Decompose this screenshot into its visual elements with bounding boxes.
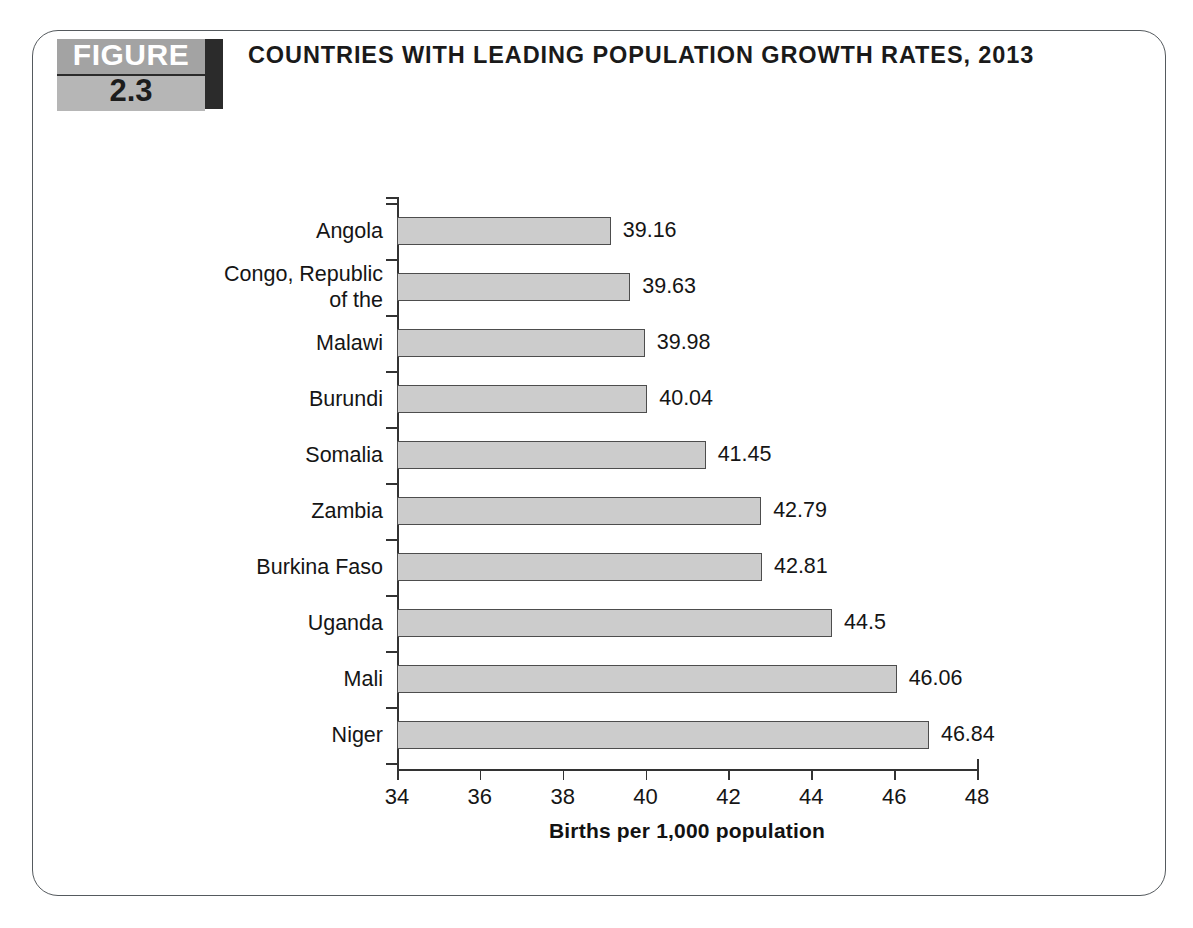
category-label: Niger	[43, 722, 383, 748]
y-axis-tick	[386, 203, 397, 205]
figure-badge: FIGURE 2.3	[57, 39, 223, 109]
x-axis-tick	[894, 769, 896, 780]
x-axis-tick-label: 34	[385, 783, 409, 811]
category-label: Somalia	[43, 442, 383, 468]
bar-value-label: 42.81	[774, 552, 828, 580]
bar-row: 44.5Uganda	[397, 595, 977, 651]
category-label: Angola	[43, 218, 383, 244]
bar-row: 42.79Zambia	[397, 483, 977, 539]
y-axis-tick	[386, 763, 397, 765]
x-axis-tick-label: 46	[882, 783, 906, 811]
bar-value-label: 42.79	[773, 496, 827, 524]
x-axis-line	[397, 769, 977, 771]
figure-badge-accent-bar	[205, 39, 223, 109]
bar-row: 39.16Angola	[397, 203, 977, 259]
bar	[397, 609, 832, 637]
category-label: Malawi	[43, 330, 383, 356]
bar-chart-plot: 39.16Angola39.63Congo, Republic of the39…	[397, 203, 977, 763]
bar-value-label: 41.45	[718, 440, 772, 468]
category-label: Burkina Faso	[43, 554, 383, 580]
chart-area: 39.16Angola39.63Congo, Republic of the39…	[33, 141, 1165, 897]
category-label: Congo, Republic of the	[43, 261, 383, 313]
y-axis-tick	[386, 651, 397, 653]
bar-row: 40.04Burundi	[397, 371, 977, 427]
y-axis-tick	[386, 371, 397, 373]
bar	[397, 497, 761, 525]
figure-frame: FIGURE 2.3 COUNTRIES WITH LEADING POPULA…	[32, 30, 1166, 896]
bar-row: 42.81Burkina Faso	[397, 539, 977, 595]
y-axis-tick	[386, 595, 397, 597]
bar	[397, 385, 647, 413]
x-axis-title: Births per 1,000 population	[397, 819, 977, 843]
bar-value-label: 39.16	[623, 216, 677, 244]
x-axis-tick-label: 48	[965, 783, 989, 811]
x-axis-tick	[811, 769, 813, 780]
category-label: Mali	[43, 666, 383, 692]
bar-value-label: 39.98	[657, 328, 711, 356]
x-axis-tick	[480, 769, 482, 780]
x-axis-tick	[977, 769, 979, 780]
bar	[397, 665, 897, 693]
bar	[397, 217, 611, 245]
category-label: Zambia	[43, 498, 383, 524]
bar-row: 39.98Malawi	[397, 315, 977, 371]
x-axis-tick	[563, 769, 565, 780]
x-axis-tick-label: 40	[633, 783, 657, 811]
bar-value-label: 39.63	[642, 272, 696, 300]
figure-header: FIGURE 2.3 COUNTRIES WITH LEADING POPULA…	[33, 31, 1165, 141]
x-axis-tick-label: 44	[799, 783, 823, 811]
category-label: Burundi	[43, 386, 383, 412]
x-axis-tick	[646, 769, 648, 780]
bar	[397, 273, 630, 301]
figure-badge-number: 2.3	[57, 72, 205, 109]
y-axis-tick	[386, 315, 397, 317]
x-axis-tick-label: 36	[468, 783, 492, 811]
x-axis-tick	[728, 769, 730, 780]
bar-row: 41.45Somalia	[397, 427, 977, 483]
y-axis-tick	[386, 707, 397, 709]
bar	[397, 329, 645, 357]
bar	[397, 721, 929, 749]
category-label: Uganda	[43, 610, 383, 636]
bar-value-label: 44.5	[844, 608, 886, 636]
bar	[397, 553, 762, 581]
y-axis-tick	[386, 259, 397, 261]
bar-value-label: 46.06	[909, 664, 963, 692]
bar-row: 46.84Niger	[397, 707, 977, 763]
x-axis-tick-label: 38	[550, 783, 574, 811]
bar-row: 39.63Congo, Republic of the	[397, 259, 977, 315]
y-axis-tick	[386, 483, 397, 485]
y-axis-tick	[386, 427, 397, 429]
x-axis-tick-label: 42	[716, 783, 740, 811]
bar	[397, 441, 706, 469]
page-title: COUNTRIES WITH LEADING POPULATION GROWTH…	[248, 39, 1048, 72]
bar-row: 46.06Mali	[397, 651, 977, 707]
figure-badge-word: FIGURE	[57, 37, 205, 73]
x-axis-tick	[397, 769, 399, 780]
bar-value-label: 46.84	[941, 720, 995, 748]
y-axis-tick	[386, 539, 397, 541]
y-axis-tick	[386, 197, 397, 199]
bar-value-label: 40.04	[659, 384, 713, 412]
